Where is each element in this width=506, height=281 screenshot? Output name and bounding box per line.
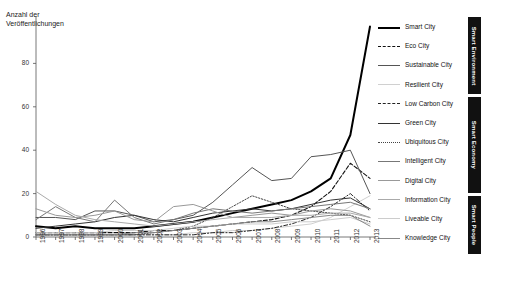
- x-tick-label: 1999: [97, 229, 104, 243]
- legend-item[interactable]: Knowledge City: [378, 228, 458, 247]
- x-tick-label: 2007: [255, 229, 262, 243]
- y-tick-label: 0: [11, 233, 29, 240]
- legend-label: Intelligent City: [405, 157, 446, 164]
- y-tick-label: 40: [11, 146, 29, 153]
- legend-line-swatch: [378, 80, 400, 88]
- legend-line-swatch: [378, 176, 400, 184]
- x-tick-label: 1996: [39, 229, 46, 243]
- group-bar: Smart Economy: [468, 97, 481, 193]
- legend-item[interactable]: Intelligent City: [378, 151, 458, 170]
- legend-item[interactable]: Resilient City: [378, 75, 458, 94]
- legend-label: Low Carbon City: [405, 100, 453, 107]
- publication-trend-chart: Anzahl der Veröffentlichungen Smart City…: [0, 0, 506, 281]
- x-tick-label: 2005: [215, 229, 222, 243]
- x-tick-label: 2004: [196, 229, 203, 243]
- legend-label: Resilient City: [405, 81, 443, 88]
- x-tick-label: 1998: [78, 229, 85, 243]
- legend-label: Information City: [405, 196, 451, 203]
- x-tick-label: 2006: [235, 229, 242, 243]
- legend-label: Green City: [405, 119, 436, 126]
- x-tick-label: 2008: [274, 229, 281, 243]
- x-tick-label: 2012: [353, 229, 360, 243]
- group-bar-label: Smart People: [472, 205, 478, 246]
- legend-item[interactable]: Digital City: [378, 171, 458, 190]
- legend-line-swatch: [378, 157, 400, 165]
- series-line: [36, 27, 370, 229]
- x-tick-label: 2010: [314, 229, 321, 243]
- y-tick-label: 60: [11, 103, 29, 110]
- legend-line-swatch: [378, 195, 400, 203]
- legend-item[interactable]: Ubiquitous City: [378, 132, 458, 151]
- legend-item[interactable]: Information City: [378, 190, 458, 209]
- x-tick-label: 2000: [117, 229, 124, 243]
- legend-label: Digital City: [405, 177, 436, 184]
- legend-line-swatch: [378, 99, 400, 107]
- x-tick-label: 2013: [373, 229, 380, 243]
- legend-line-swatch: [378, 42, 400, 50]
- legend-line-swatch: [378, 61, 400, 69]
- group-bar: Smart Environment: [468, 17, 481, 94]
- legend-line-swatch: [378, 234, 400, 242]
- legend-line-swatch: [378, 138, 400, 146]
- legend-item[interactable]: Smart City: [378, 17, 458, 36]
- x-tick-label: 1997: [58, 229, 65, 243]
- legend-label: Ubiquitous City: [405, 138, 449, 145]
- x-tick-label: 2001: [137, 229, 144, 243]
- x-tick-label: 2009: [294, 229, 301, 243]
- legend-label: Smart City: [405, 23, 435, 30]
- legend-item[interactable]: Green City: [378, 113, 458, 132]
- group-bar: Smart People: [468, 196, 481, 254]
- group-bar-label: Smart Environment: [472, 26, 478, 85]
- legend-item[interactable]: Liveable City: [378, 209, 458, 228]
- legend-item[interactable]: Sustainable City: [378, 55, 458, 74]
- group-bar-label: Smart Economy: [472, 121, 478, 169]
- chart-legend: Smart CityEco CitySustainable CityResili…: [378, 17, 458, 247]
- x-tick-label: 2002: [156, 229, 163, 243]
- legend-label: Eco City: [405, 42, 429, 49]
- y-tick-label: 80: [11, 59, 29, 66]
- x-tick-label: 2003: [176, 229, 183, 243]
- legend-line-swatch: [378, 119, 400, 127]
- legend-line-swatch: [378, 23, 400, 31]
- legend-label: Sustainable City: [405, 61, 452, 68]
- legend-item[interactable]: Low Carbon City: [378, 94, 458, 113]
- legend-item[interactable]: Eco City: [378, 36, 458, 55]
- legend-line-swatch: [378, 214, 400, 222]
- x-tick-label: 2011: [333, 229, 340, 243]
- legend-label: Knowledge City: [405, 234, 450, 241]
- y-tick-label: 20: [11, 190, 29, 197]
- legend-label: Liveable City: [405, 215, 442, 222]
